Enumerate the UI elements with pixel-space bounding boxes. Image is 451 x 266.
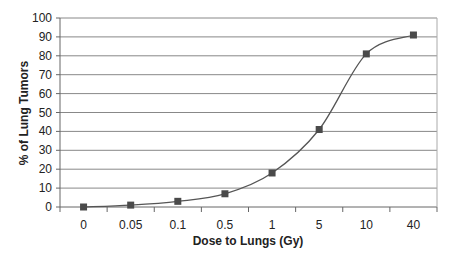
y-tick-label: 80: [39, 49, 53, 63]
y-tick-label: 90: [39, 30, 53, 44]
y-tick-label: 50: [39, 106, 53, 120]
data-point-marker: [174, 198, 181, 205]
data-point-marker: [127, 202, 134, 209]
data-point-marker: [80, 204, 87, 211]
y-axis-title: % of Lung Tumors: [17, 60, 31, 165]
data-markers: [80, 32, 417, 211]
y-tick-label: 20: [39, 162, 53, 176]
data-point-marker: [363, 50, 370, 57]
y-tick-label: 70: [39, 68, 53, 82]
y-tick-label: 60: [39, 87, 53, 101]
data-point-marker: [316, 126, 323, 133]
data-line: [84, 35, 414, 207]
data-point-marker: [410, 32, 417, 39]
x-tick-label: 10: [360, 218, 374, 232]
x-tick-label: 5: [316, 218, 323, 232]
x-axis-ticks: 00.050.10.5151040: [60, 207, 437, 232]
data-point-marker: [221, 190, 228, 197]
dose-response-chart: 0102030405060708090100 00.050.10.5151040…: [0, 0, 451, 266]
x-tick-label: 0.05: [119, 218, 143, 232]
x-tick-label: 40: [407, 218, 421, 232]
y-tick-label: 40: [39, 124, 53, 138]
data-point-marker: [269, 169, 276, 176]
x-tick-label: 0.1: [169, 218, 186, 232]
y-tick-label: 30: [39, 143, 53, 157]
x-tick-label: 0.5: [217, 218, 234, 232]
x-tick-label: 1: [269, 218, 276, 232]
y-tick-label: 10: [39, 181, 53, 195]
y-axis-ticks: 0102030405060708090100: [32, 11, 60, 214]
x-tick-label: 0: [80, 218, 87, 232]
x-axis-title: Dose to Lungs (Gy): [193, 234, 304, 248]
y-tick-label: 100: [32, 11, 52, 25]
y-tick-label: 0: [45, 200, 52, 214]
